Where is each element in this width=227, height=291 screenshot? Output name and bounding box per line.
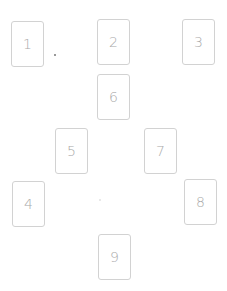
card-9[interactable]: 9 bbox=[98, 234, 131, 280]
card-4[interactable]: 4 bbox=[12, 181, 45, 227]
card-6[interactable]: 6 bbox=[97, 74, 130, 120]
card-number: 8 bbox=[196, 195, 205, 209]
card-number: 5 bbox=[67, 144, 76, 158]
card-number: 3 bbox=[194, 35, 203, 49]
card-number: 2 bbox=[109, 35, 118, 49]
card-1[interactable]: 1 bbox=[11, 21, 44, 67]
marker-dot bbox=[99, 199, 101, 201]
card-3[interactable]: 3 bbox=[182, 19, 215, 65]
card-number: 1 bbox=[23, 37, 32, 51]
card-number: 7 bbox=[156, 144, 165, 158]
card-7[interactable]: 7 bbox=[144, 128, 177, 174]
card-8[interactable]: 8 bbox=[184, 179, 217, 225]
card-number: 9 bbox=[110, 250, 119, 264]
card-5[interactable]: 5 bbox=[55, 128, 88, 174]
marker-dot bbox=[54, 54, 56, 56]
card-2[interactable]: 2 bbox=[97, 19, 130, 65]
card-number: 6 bbox=[109, 90, 118, 104]
card-number: 4 bbox=[24, 197, 33, 211]
